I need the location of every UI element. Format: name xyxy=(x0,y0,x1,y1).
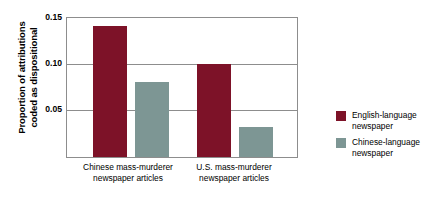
bar-chinese-articles-chinese-newspaper xyxy=(135,82,169,157)
plot-area xyxy=(66,17,298,158)
legend-label-english-newspaper-line2: newspaper xyxy=(352,121,417,132)
legend-label-english-newspaper: English-language newspaper xyxy=(352,110,417,131)
x-axis-label-chinese-articles-line2: newspaper articles xyxy=(68,173,188,184)
x-axis-label-us-articles: U.S. mass-murderer newspaper articles xyxy=(174,162,294,184)
legend-item-english-newspaper: English-language newspaper xyxy=(336,110,420,131)
chart-legend: English-language newspaper Chinese-langu… xyxy=(336,110,420,164)
y-axis-title-line2: coded as dispositional xyxy=(27,0,39,163)
y-tick-label-010: 0.10 xyxy=(36,59,62,68)
y-tick-label-005: 0.05 xyxy=(36,105,62,114)
legend-label-english-newspaper-line1: English-language xyxy=(352,110,417,121)
legend-swatch-chinese-newspaper xyxy=(336,138,346,148)
legend-label-chinese-newspaper-line2: newspaper xyxy=(352,148,420,159)
y-tick-label-015: 0.15 xyxy=(36,13,62,22)
x-axis-label-chinese-articles: Chinese mass-murderer newspaper articles xyxy=(68,162,188,184)
bar-us-articles-english-newspaper xyxy=(197,64,231,157)
legend-label-chinese-newspaper: Chinese-language newspaper xyxy=(352,137,420,158)
bar-chart-figure: Proportion of attributions coded as disp… xyxy=(0,0,431,201)
bar-us-articles-chinese-newspaper xyxy=(239,127,273,157)
x-axis-label-us-articles-line2: newspaper articles xyxy=(174,173,294,184)
legend-label-chinese-newspaper-line1: Chinese-language xyxy=(352,137,420,148)
y-axis-title: Proportion of attributions coded as disp… xyxy=(16,0,39,163)
bar-chinese-articles-english-newspaper xyxy=(93,26,127,157)
y-axis-title-line1: Proportion of attributions xyxy=(16,21,27,133)
x-axis-label-chinese-articles-line1: Chinese mass-murderer xyxy=(68,162,188,173)
legend-swatch-english-newspaper xyxy=(336,111,346,121)
legend-item-chinese-newspaper: Chinese-language newspaper xyxy=(336,137,420,158)
x-axis-label-us-articles-line1: U.S. mass-murderer xyxy=(174,162,294,173)
